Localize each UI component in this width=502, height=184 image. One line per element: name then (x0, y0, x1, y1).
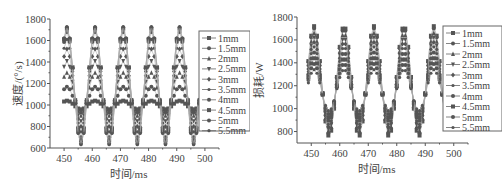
loss-chart: 1800160014001200100080045046047048049050… (250, 0, 502, 184)
y-axis-label: 损耗/W (252, 62, 265, 98)
x-tick-label: 460 (332, 148, 348, 159)
y-tick-label: 1400 (25, 57, 46, 68)
legend-entry: 4.5mm (462, 101, 490, 112)
x-tick-label: 470 (113, 153, 129, 164)
y-tick-label: 1400 (272, 57, 293, 68)
x-axis-label: 时间/ms (110, 168, 148, 180)
y-tick-label: 800 (30, 121, 46, 132)
series-group (62, 25, 201, 146)
legend-entry: 2mm (462, 49, 483, 60)
legend-entry: 3mm (462, 70, 483, 81)
x-tick-label: 480 (141, 153, 157, 164)
x-tick-label: 470 (360, 148, 376, 159)
loss-chart-svg: 1800160014001200100080045046047048049050… (250, 0, 502, 184)
legend-entry: 5.5mm (462, 122, 490, 133)
y-axis-label: 速度/(°/s) (11, 61, 25, 105)
legend-entry: 1mm (462, 28, 483, 39)
legend-entry: 3.5mm (462, 80, 490, 91)
y-tick-label: 1600 (272, 34, 293, 45)
y-tick-label: 1000 (25, 100, 46, 111)
y-tick-label: 800 (277, 126, 293, 137)
legend-entry: 5.5mm (218, 125, 246, 136)
legend-entry: 5mm (462, 112, 483, 123)
legend-entry: 4mm (462, 91, 483, 102)
x-tick-label: 480 (389, 148, 405, 159)
y-tick-label: 1200 (272, 80, 293, 91)
x-tick-label: 500 (197, 153, 213, 164)
y-tick-label: 1200 (25, 78, 46, 89)
x-tick-label: 500 (446, 148, 462, 159)
legend-entry: 2.5mm (462, 59, 490, 70)
speed-chart: 1800160014001200100080060045046047048049… (0, 0, 250, 184)
legend-entry: 1.5mm (462, 38, 490, 49)
x-axis-label: 时间/ms (358, 163, 396, 175)
speed-chart-svg: 1800160014001200100080060045046047048049… (0, 0, 250, 184)
y-tick-label: 1800 (25, 14, 46, 25)
x-tick-label: 450 (303, 148, 319, 159)
x-tick-label: 450 (56, 153, 72, 164)
x-tick-label: 490 (169, 153, 185, 164)
legend: 1mm1.5mm2mm2.5mm3mm3.5mm4mm4.5mm5mm5.5mm (443, 26, 502, 133)
series-group (306, 24, 447, 137)
y-tick-label: 1000 (272, 103, 293, 114)
y-tick-label: 600 (30, 143, 46, 154)
y-tick-label: 1800 (272, 12, 293, 23)
y-tick-label: 1600 (25, 35, 46, 46)
x-tick-label: 460 (84, 153, 100, 164)
legend: 1mm1.5mm2mm2.5mm3mm3.5mm4mm4.5mm5mm5.5mm (199, 31, 250, 136)
x-tick-label: 490 (417, 148, 433, 159)
